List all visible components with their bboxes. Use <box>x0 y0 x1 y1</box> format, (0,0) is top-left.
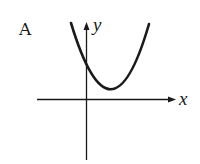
figure-canvas: A x y <box>0 0 200 164</box>
x-axis-label: x <box>178 88 188 109</box>
graph-svg: A x y <box>0 0 200 164</box>
y-axis: y <box>84 14 103 160</box>
y-axis-arrow-icon <box>84 22 90 30</box>
x-axis-arrow-icon <box>168 97 176 103</box>
y-axis-label: y <box>91 14 102 35</box>
x-axis: x <box>37 88 188 109</box>
panel-label: A <box>18 19 32 39</box>
parabola-curve <box>71 23 149 89</box>
